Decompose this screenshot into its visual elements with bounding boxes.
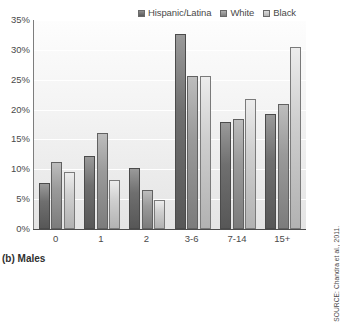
bar: [187, 76, 198, 229]
x-axis-line: [33, 229, 306, 230]
bar: [154, 200, 165, 229]
bar: [233, 119, 244, 229]
y-axis-tick-label: 30%: [1, 45, 30, 55]
y-axis-tick-label: 15%: [1, 134, 30, 144]
bar: [39, 183, 50, 229]
x-axis-tick-label: 7-14: [227, 233, 246, 244]
x-axis-tick-label: 3-6: [185, 233, 199, 244]
bar: [64, 172, 75, 229]
bar: [51, 162, 62, 229]
bar: [220, 122, 231, 229]
x-axis-tick-label: 1: [98, 233, 103, 244]
legend-swatch-icon: [263, 10, 270, 17]
legend-label: Black: [273, 8, 296, 18]
bar: [109, 180, 120, 229]
y-axis-tick-label: 10%: [1, 164, 30, 174]
bar: [142, 190, 153, 229]
bar: [290, 47, 301, 229]
bar: [200, 76, 211, 229]
x-axis-tick-label: 0: [53, 233, 58, 244]
y-axis-tick-label: 0%: [1, 224, 30, 234]
bar: [265, 114, 276, 229]
x-axis-tick-label: 2: [144, 233, 149, 244]
legend-entry-black: Black: [263, 8, 296, 18]
legend-label: Hispanic/Latina: [148, 8, 211, 18]
bar: [175, 34, 186, 229]
bar: [278, 104, 289, 229]
y-axis: 0%5%10%15%20%25%30%35%: [0, 0, 30, 272]
source-note: SOURCE: Chandra et al., 2011.: [333, 226, 340, 322]
y-axis-tick-label: 35%: [1, 15, 30, 25]
bar-series-container: [34, 20, 306, 229]
legend-label: White: [230, 8, 254, 18]
x-axis-tick-label: 15+: [274, 233, 290, 244]
figure-caption: (b) Males: [2, 253, 45, 265]
y-axis-tick-label: 25%: [1, 75, 30, 85]
bar: [129, 168, 140, 230]
legend-entry-hispanic-latina: Hispanic/Latina: [138, 8, 211, 18]
y-axis-tick-label: 5%: [1, 194, 30, 204]
y-axis-tick-label: 20%: [1, 105, 30, 115]
legend-swatch-icon: [138, 10, 145, 17]
bar: [97, 133, 108, 229]
bar: [245, 99, 256, 229]
chart-legend: Hispanic/Latina White Black: [138, 6, 296, 20]
legend-swatch-icon: [220, 10, 227, 17]
plot-area: [33, 20, 306, 229]
legend-entry-white: White: [220, 8, 254, 18]
bar: [84, 156, 95, 229]
